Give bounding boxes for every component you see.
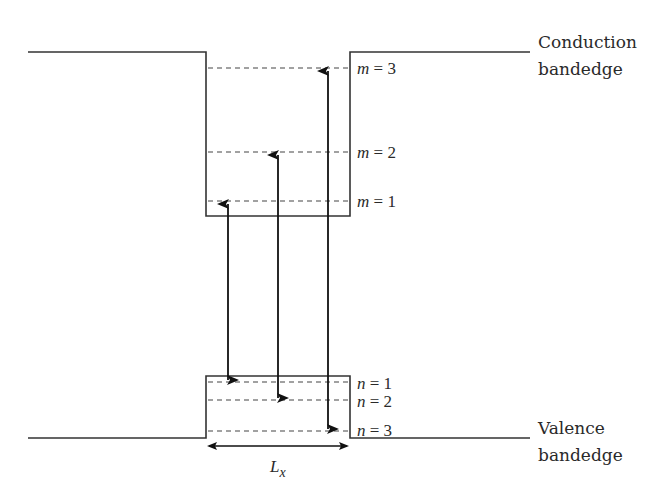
- label-n2: n = 2: [357, 392, 392, 411]
- label-m2: m = 2: [357, 143, 396, 162]
- label-n3: n = 3: [357, 421, 392, 440]
- valence-band-edge: [28, 376, 530, 438]
- conduction-label-line2: bandedge: [538, 59, 623, 79]
- conduction-band-edge: [28, 52, 530, 216]
- well-width-label: Lx: [269, 457, 286, 480]
- conduction-label-line1: Conduction: [538, 32, 637, 52]
- valence-label-line1: Valence: [537, 418, 605, 438]
- label-m1: m = 1: [357, 192, 396, 211]
- valence-label-line2: bandedge: [538, 445, 623, 465]
- label-n1: n = 1: [357, 374, 392, 393]
- quantum-well-diagram: m = 3 m = 2 m = 1 n = 1 n = 2 n = 3 Cond…: [0, 0, 663, 495]
- label-m3: m = 3: [357, 59, 396, 78]
